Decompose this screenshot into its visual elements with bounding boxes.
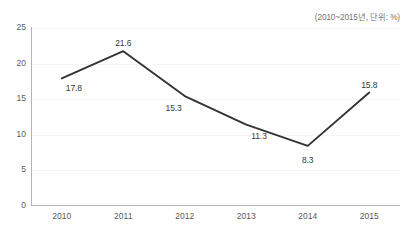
data-point-label: 15.3: [166, 103, 182, 113]
x-axis-tick-label: 2014: [298, 211, 317, 221]
y-axis-tick-label: 15: [17, 93, 26, 103]
y-axis-tick-label: 10: [17, 129, 26, 139]
x-axis-tick-label: 2011: [114, 211, 132, 221]
gridline: [31, 28, 400, 29]
x-axis-tick-label: 2015: [360, 211, 379, 221]
line-chart: (2010~2015년, 단위: %) 0510152025 201020112…: [0, 0, 409, 230]
data-point-label: 15.8: [361, 80, 377, 90]
gridline: [31, 170, 400, 171]
y-axis-tick-label: 5: [21, 164, 26, 174]
x-axis-line: [31, 205, 400, 206]
x-axis-tick-label: 2013: [237, 211, 256, 221]
y-axis-tick-label: 20: [17, 58, 26, 68]
data-point-label: 21.6: [115, 38, 131, 48]
chart-subtitle: (2010~2015년, 단위: %): [315, 10, 400, 22]
y-axis-tick-label: 25: [17, 22, 26, 32]
x-axis-tick-label: 2010: [52, 211, 71, 221]
y-axis-line: [31, 27, 32, 206]
y-axis-tick-labels: 0510152025: [0, 0, 26, 230]
x-axis-tick-label: 2012: [175, 211, 194, 221]
gridline: [31, 64, 400, 65]
gridline: [31, 135, 400, 136]
plot-area: [31, 28, 400, 205]
y-axis-tick-label: 0: [21, 200, 26, 210]
data-point-label: 8.3: [302, 155, 314, 165]
data-point-label: 11.3: [251, 131, 267, 141]
gridline: [31, 99, 400, 100]
data-point-label: 17.8: [66, 83, 82, 93]
